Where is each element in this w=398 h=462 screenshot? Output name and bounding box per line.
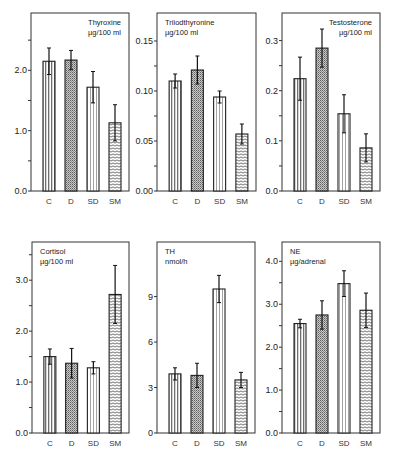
x-tick-label: D xyxy=(69,439,75,448)
bar-d xyxy=(65,60,77,191)
bar-c xyxy=(43,61,55,191)
y-tick-label: 3 xyxy=(148,383,153,393)
x-tick-label: SD xyxy=(88,439,99,448)
bar-d xyxy=(316,315,328,433)
y-tick-label: 9 xyxy=(148,292,153,302)
bar-d xyxy=(316,48,328,191)
y-tick-label: 0.0 xyxy=(15,428,28,438)
y-tick-label: 1.0 xyxy=(14,126,27,136)
x-tick-label: SM xyxy=(109,197,121,206)
y-tick-label: 0.0 xyxy=(265,428,278,438)
y-tick-label: 3.0 xyxy=(15,275,28,285)
x-tick-label: D xyxy=(68,197,74,206)
bar-sd xyxy=(87,368,99,433)
x-tick-label: SD xyxy=(338,197,349,206)
panel-cortisol: 0.01.02.03.0CDSDSMCortisolµg/100 ml xyxy=(15,242,129,448)
panel-th: 0369CDSDSMTHnmol/h xyxy=(148,242,255,448)
y-tick-label: 0 xyxy=(148,428,153,438)
panel-title: Thyroxine xyxy=(88,18,121,27)
y-tick-label: 2.0 xyxy=(265,342,278,352)
bar-c xyxy=(294,324,306,433)
y-tick-label: 6 xyxy=(148,337,153,347)
x-tick-label: C xyxy=(47,439,53,448)
x-tick-label: SD xyxy=(87,197,98,206)
panel-title: Triiodthyronine xyxy=(165,18,214,27)
x-tick-label: D xyxy=(319,439,325,448)
y-tick-label: 1.0 xyxy=(265,385,278,395)
y-tick-label: 0.3 xyxy=(265,36,278,46)
panel-unit: µg/100 ml xyxy=(339,28,372,37)
y-tick-label: 4.0 xyxy=(265,256,278,266)
bar-sm xyxy=(360,310,372,433)
panel-unit: µg/100 ml xyxy=(165,28,198,37)
bar-c xyxy=(44,357,56,433)
y-tick-label: 0.2 xyxy=(265,86,278,96)
y-tick-label: 1.0 xyxy=(15,377,28,387)
x-tick-label: C xyxy=(172,439,178,448)
y-tick-label: 3.0 xyxy=(265,299,278,309)
panel-unit: nmol/h xyxy=(165,257,188,266)
x-tick-label: D xyxy=(194,197,200,206)
y-tick-label: 2.0 xyxy=(15,326,28,336)
panel-title: TH xyxy=(165,247,175,256)
bar-c xyxy=(169,374,181,433)
panel-ne: 0.01.02.03.04.0CDSDSMNEµg/adrenal xyxy=(265,242,380,448)
panel-unit: µg/100 ml xyxy=(40,257,73,266)
x-tick-label: SM xyxy=(236,197,248,206)
x-tick-label: D xyxy=(319,197,325,206)
figure: 0.01.02.0CDSDSMThyroxineµg/100 ml 0.000.… xyxy=(0,0,398,462)
x-tick-label: SD xyxy=(338,439,349,448)
panel-title: Testosterone xyxy=(329,18,372,27)
y-tick-label: 0.0 xyxy=(265,186,278,196)
panel-title: NE xyxy=(290,247,300,256)
x-tick-label: D xyxy=(194,439,200,448)
y-tick-label: 0.05 xyxy=(135,136,153,146)
bar-sd xyxy=(338,284,350,433)
x-tick-label: SM xyxy=(360,439,372,448)
y-tick-label: 0.10 xyxy=(135,86,153,96)
panel-testosterone: 0.00.10.20.3CDSDSMTestosteroneµg/100 ml xyxy=(265,13,380,206)
bar-c xyxy=(169,81,181,191)
bar-d xyxy=(191,70,203,191)
x-tick-label: SM xyxy=(235,439,247,448)
panel-thyroxine: 0.01.02.0CDSDSMThyroxineµg/100 ml xyxy=(14,13,129,206)
x-tick-label: SD xyxy=(214,197,225,206)
y-tick-label: 2.0 xyxy=(14,65,27,75)
panel-unit: µg/100 ml xyxy=(88,28,121,37)
y-tick-label: 0.00 xyxy=(135,186,153,196)
x-tick-label: C xyxy=(297,439,303,448)
panel-unit: µg/adrenal xyxy=(290,257,326,266)
y-tick-label: 0.15 xyxy=(135,36,153,46)
x-tick-label: SD xyxy=(213,439,224,448)
y-tick-label: 0.1 xyxy=(265,136,278,146)
x-tick-label: SM xyxy=(360,197,372,206)
bar-sd xyxy=(213,289,225,433)
panel-title: Cortisol xyxy=(40,247,66,256)
x-tick-label: C xyxy=(46,197,52,206)
x-tick-label: C xyxy=(297,197,303,206)
y-tick-label: 0.0 xyxy=(14,186,27,196)
x-tick-label: C xyxy=(172,197,178,206)
x-tick-label: SM xyxy=(109,439,121,448)
bar-sd xyxy=(214,97,226,191)
panel-triiodthyronine: 0.000.050.100.15CDSDSMTriiodthyronineµg/… xyxy=(135,13,256,206)
